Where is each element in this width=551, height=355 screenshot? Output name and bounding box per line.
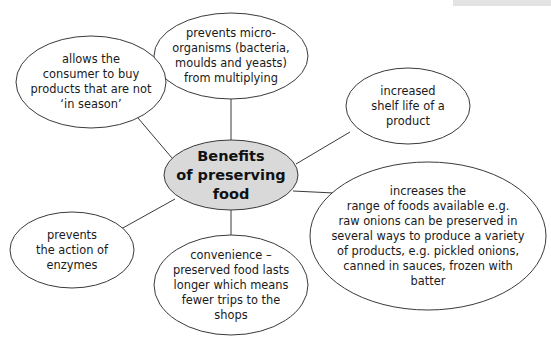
node-label-microorganisms: prevents micro- organisms (bacteria, mou…: [154, 14, 308, 98]
node-label-enzymes: prevents the action of enzymes: [10, 212, 134, 288]
node-label-shelf-life: increased shelf life of a product: [346, 68, 470, 144]
center-node-label: Benefits of preserving food: [164, 140, 298, 210]
node-label-convenience: convenience – preserved food lasts longe…: [154, 235, 308, 335]
node-label-in-season: allows the consumer to buy products that…: [16, 38, 166, 126]
connector-shelf-life: [296, 132, 350, 164]
node-label-range: increases the range of foods available e…: [312, 162, 544, 310]
